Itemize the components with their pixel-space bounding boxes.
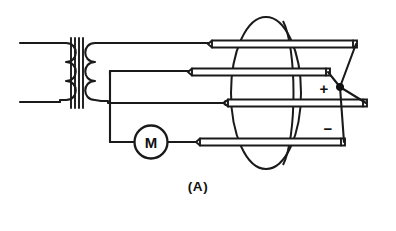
secondary-circuit-wiring — [101, 43, 228, 142]
wire-diagonal-upper — [340, 44, 356, 87]
positive-terminal-label: + — [320, 80, 329, 97]
negative-terminal-label: − — [324, 120, 333, 137]
output-junction-node — [336, 83, 343, 90]
motor-label: M — [145, 134, 158, 151]
wire-tap-c-to-electrode-3 — [101, 101, 226, 103]
electrode-2 — [188, 69, 330, 76]
motor: M — [135, 126, 168, 159]
output-junction — [328, 44, 366, 142]
electrode-1 — [208, 41, 357, 48]
transformer — [20, 38, 101, 108]
schematic-svg: M — [0, 0, 396, 231]
transformer-primary-winding — [60, 43, 76, 102]
transformer-secondary-winding — [85, 43, 101, 101]
schematic-diagram: M — [0, 0, 396, 231]
figure-caption: (A) — [0, 179, 396, 194]
electrode-3 — [224, 100, 367, 107]
wire-tap-b-to-electrode-2 — [110, 71, 192, 75]
wire-diagonal-lower — [340, 87, 344, 142]
electrode-4 — [196, 139, 345, 146]
